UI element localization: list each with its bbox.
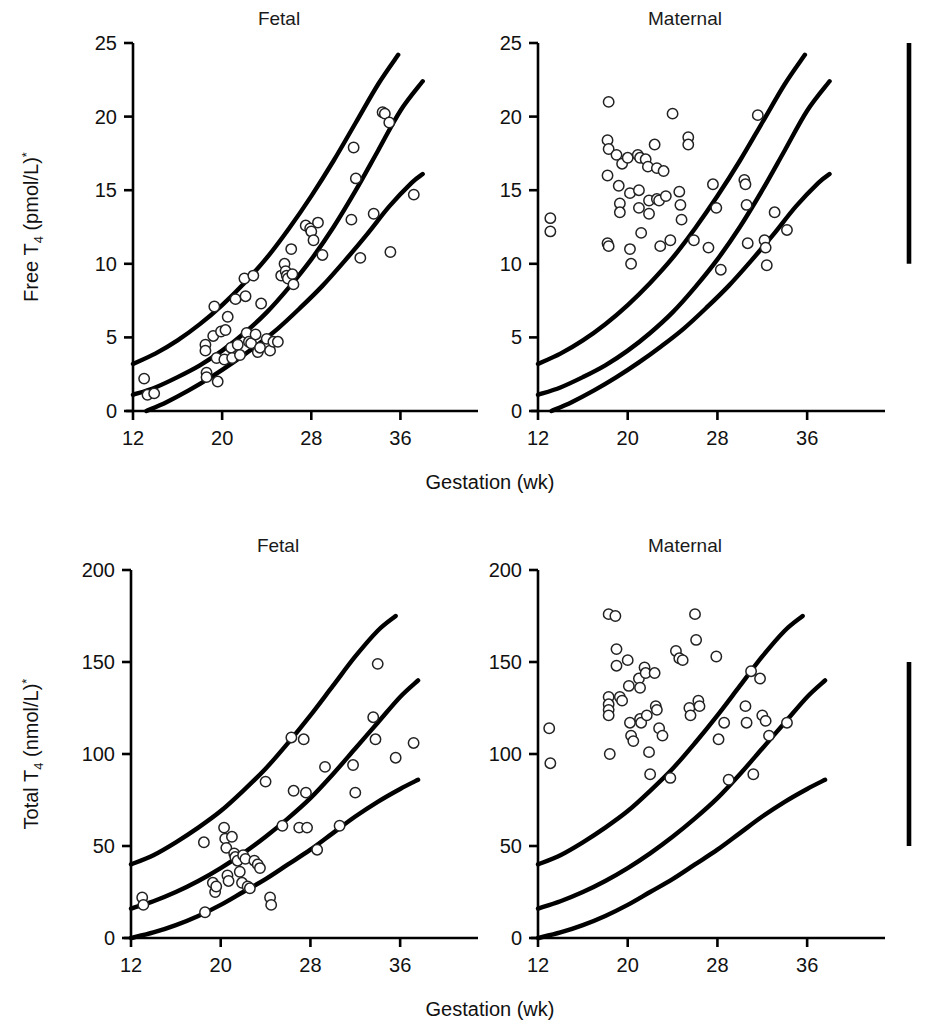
- y-axis-title-tail: (nmol/L): [20, 684, 42, 763]
- data-point-marker: [545, 213, 555, 223]
- data-point-marker: [219, 822, 229, 832]
- data-point-marker: [741, 718, 751, 728]
- data-point-marker: [227, 832, 237, 842]
- data-point-marker: [199, 837, 209, 847]
- data-point-marker: [665, 235, 675, 245]
- data-point-marker: [312, 844, 322, 854]
- data-point-marker: [683, 139, 693, 149]
- data-point-marker: [635, 683, 645, 693]
- x-tick-label: 36: [796, 954, 818, 976]
- y-tick-label: 0: [511, 400, 522, 422]
- data-point-marker: [611, 660, 621, 670]
- x-tick-label: 28: [300, 427, 322, 449]
- x-tick-label: 36: [389, 427, 411, 449]
- data-point-marker: [649, 668, 659, 678]
- data-point-marker: [545, 758, 555, 768]
- x-tick-label: 12: [527, 954, 549, 976]
- data-point-marker: [605, 749, 615, 759]
- y-axis-title-subscript: 4: [31, 763, 46, 770]
- y-axis-title-lead: Total T: [20, 770, 42, 830]
- data-point-marker: [634, 203, 644, 213]
- data-point-marker: [334, 821, 344, 831]
- data-point-marker: [301, 787, 311, 797]
- y-tick-label: 50: [500, 835, 522, 857]
- chart-panel-maternal-total-t4: Maternal05010015020012202836: [489, 535, 909, 976]
- y-axis-title-tail: (pmol/L): [20, 157, 42, 236]
- data-point-marker: [346, 214, 356, 224]
- data-point-marker: [320, 762, 330, 772]
- data-point-marker: [139, 373, 149, 383]
- data-point-marker: [348, 142, 358, 152]
- y-axis-title-lead: Free T: [20, 243, 42, 302]
- data-point-marker: [610, 611, 620, 621]
- data-point-marker: [245, 883, 255, 893]
- data-point-marker: [614, 181, 624, 191]
- panel-title: Maternal: [648, 535, 722, 556]
- data-point-marker: [716, 264, 726, 274]
- panel-title: Fetal: [257, 535, 299, 556]
- data-point-marker: [200, 907, 210, 917]
- data-point-marker: [743, 238, 753, 248]
- data-point-marker: [611, 644, 621, 654]
- y-axis-title-text: Total T4 (nmol/L)*: [19, 679, 46, 830]
- data-point-marker: [287, 269, 297, 279]
- data-point-marker: [286, 732, 296, 742]
- data-point-marker: [240, 291, 250, 301]
- data-point-marker: [685, 710, 695, 720]
- data-point-marker: [223, 312, 233, 322]
- data-point-marker: [273, 337, 283, 347]
- data-point-marker: [302, 822, 312, 832]
- data-point-marker: [623, 153, 633, 163]
- data-point-marker: [665, 773, 675, 783]
- y-axis-title-subscript: 4: [31, 236, 46, 243]
- x-tick-label: 36: [389, 954, 411, 976]
- x-axis-title: Gestation (wk): [426, 998, 555, 1020]
- x-tick-label: 12: [122, 427, 144, 449]
- data-point-marker: [723, 775, 733, 785]
- y-tick-label: 20: [500, 106, 522, 128]
- data-point-marker: [624, 681, 634, 691]
- chart-panel-fetal-total-t4: Fetal05010015020012202836Gestation (wk)T…: [19, 535, 554, 1020]
- x-tick-label: 12: [527, 427, 549, 449]
- data-point-marker: [368, 712, 378, 722]
- x-tick-label: 20: [617, 954, 639, 976]
- y-tick-label: 15: [500, 179, 522, 201]
- y-axis-title-text: Free T4 (pmol/L)*: [19, 152, 46, 302]
- data-point-marker: [286, 244, 296, 254]
- data-point-marker: [644, 747, 654, 757]
- y-axis-title-asterisk: *: [19, 152, 34, 157]
- data-point-marker: [658, 166, 668, 176]
- data-point-marker: [760, 716, 770, 726]
- data-point-marker: [200, 345, 210, 355]
- y-tick-label: 20: [95, 106, 117, 128]
- data-point-marker: [689, 235, 699, 245]
- data-point-marker: [691, 635, 701, 645]
- data-point-marker: [348, 760, 358, 770]
- data-point-marker: [299, 734, 309, 744]
- data-point-marker: [636, 228, 646, 238]
- panel-title: Maternal: [648, 8, 722, 29]
- data-point-marker: [769, 207, 779, 217]
- y-tick-label: 25: [95, 32, 117, 54]
- data-point-marker: [645, 769, 655, 779]
- data-point-marker: [741, 200, 751, 210]
- centile-curve-upper-centile: [133, 55, 398, 364]
- data-point-marker: [235, 867, 245, 877]
- data-points: [545, 97, 792, 275]
- y-tick-label: 150: [82, 651, 115, 673]
- data-point-marker: [623, 655, 633, 665]
- data-point-marker: [384, 117, 394, 127]
- y-axis-title: Total T4 (nmol/L)*: [19, 679, 46, 830]
- data-point-marker: [235, 350, 245, 360]
- y-axis-title-asterisk: *: [19, 679, 34, 684]
- data-point-marker: [138, 900, 148, 910]
- centile-curve-upper-centile: [131, 616, 396, 864]
- data-point-marker: [288, 279, 298, 289]
- data-point-marker: [266, 900, 276, 910]
- data-point-marker: [782, 225, 792, 235]
- y-tick-label: 200: [489, 559, 522, 581]
- data-point-marker: [368, 209, 378, 219]
- data-point-marker: [617, 695, 627, 705]
- y-tick-label: 5: [106, 326, 117, 348]
- data-point-marker: [657, 730, 667, 740]
